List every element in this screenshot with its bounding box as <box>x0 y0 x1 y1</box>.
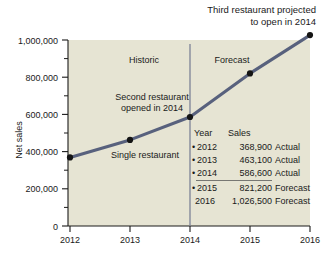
x-tick-label-2016: 2016 <box>300 235 320 245</box>
y-axis-title: Net sales <box>14 121 24 159</box>
second-restaurant-note-line2: opened in 2014 <box>121 103 183 113</box>
row-year-2012: 2012 <box>197 142 217 152</box>
y-tick-label-1000000: 1,000,000 <box>18 36 58 46</box>
y-axis-minor-ticks <box>64 59 68 208</box>
data-point-2013 <box>127 137 133 143</box>
table-row: 2016 1,026,500 Forecast <box>195 196 311 206</box>
row-bullet-2015: • <box>192 183 195 193</box>
table-header-year: Year <box>194 128 212 138</box>
row-bullet-2013: • <box>192 155 195 165</box>
x-tick-label-2014: 2014 <box>180 235 200 245</box>
row-status-2013: Actual <box>275 155 300 165</box>
table-row: • 2015 821,200 Forecast <box>192 183 311 193</box>
data-point-2015 <box>247 70 253 76</box>
data-point-2012 <box>67 154 73 160</box>
x-tick-label-2013: 2013 <box>120 235 140 245</box>
y-tick-label-0: 0 <box>53 222 58 232</box>
row-sales-2014: 586,600 <box>239 168 272 178</box>
chart-svg: 1,000,000 800,000 600,000 400,000 200,00… <box>0 0 326 263</box>
row-sales-2012: 368,900 <box>239 142 272 152</box>
row-year-2016: 2016 <box>195 196 215 206</box>
data-point-2016 <box>307 32 313 38</box>
y-tick-label-600000: 600,000 <box>25 110 58 120</box>
y-tick-label-400000: 400,000 <box>25 147 58 157</box>
row-bullet-2014: • <box>192 168 195 178</box>
y-tick-label-800000: 800,000 <box>25 73 58 83</box>
table-row: • 2014 586,600 Actual <box>192 168 300 178</box>
data-point-2014 <box>187 114 193 120</box>
plot-area-background <box>68 40 310 226</box>
second-restaurant-note-line1: Second restaurant <box>115 92 189 102</box>
y-tick-label-200000: 200,000 <box>25 184 58 194</box>
historic-region-label: Historic <box>129 55 160 65</box>
row-year-2015: 2015 <box>197 183 217 193</box>
row-status-2012: Actual <box>275 142 300 152</box>
x-tick-label-2012: 2012 <box>60 235 80 245</box>
forecast-region-label: Forecast <box>214 55 250 65</box>
x-tick-label-2015: 2015 <box>240 235 260 245</box>
table-header-sales: Sales <box>228 128 251 138</box>
table-row: • 2013 463,100 Actual <box>192 155 300 165</box>
x-axis-ticks <box>70 226 310 232</box>
net-sales-line-chart: 1,000,000 800,000 600,000 400,000 200,00… <box>0 0 326 263</box>
callout-line1: Third restaurant projected <box>207 4 316 15</box>
row-bullet-2012: • <box>192 142 195 152</box>
row-status-2015: Forecast <box>275 183 311 193</box>
callout-line2: to open in 2014 <box>250 16 316 27</box>
single-restaurant-note: Single restaurant <box>111 150 180 160</box>
row-year-2013: 2013 <box>197 155 217 165</box>
row-status-2014: Actual <box>275 168 300 178</box>
row-sales-2016: 1,026,500 <box>232 196 272 206</box>
row-year-2014: 2014 <box>197 168 217 178</box>
row-sales-2015: 821,200 <box>239 183 272 193</box>
row-sales-2013: 463,100 <box>239 155 272 165</box>
table-row: • 2012 368,900 Actual <box>192 142 300 152</box>
row-status-2016: Forecast <box>275 196 311 206</box>
